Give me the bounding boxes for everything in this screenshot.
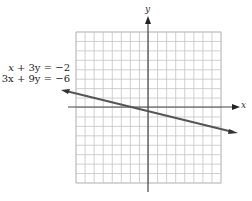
line-left-arrow-icon — [61, 89, 70, 94]
y-axis-label: y — [145, 4, 150, 14]
x-axis-label: x — [241, 100, 246, 110]
line-right-arrow-icon — [228, 129, 238, 134]
solution-line — [66, 91, 233, 132]
equation-2: 3x + 9y = −6 — [2, 73, 70, 84]
graph — [0, 0, 252, 201]
equation-1: x + 3y = −2 — [8, 62, 70, 73]
x-axis-arrow-icon — [232, 104, 240, 110]
y-axis-arrow-icon — [145, 16, 151, 24]
